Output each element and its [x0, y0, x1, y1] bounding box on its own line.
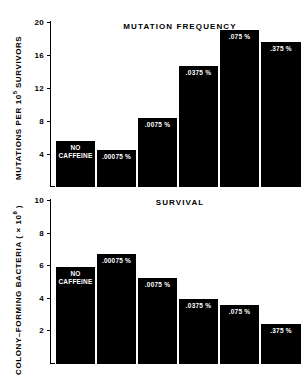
y-tick-label-top-4: 4: [20, 150, 44, 159]
bar-label-375: .375 %: [261, 42, 301, 53]
bar-label-survival-00075: .00075 %: [97, 254, 136, 265]
y-tick-top-8: [47, 121, 51, 122]
bar-survival-375[interactable]: .375 %: [260, 323, 302, 364]
bar-0075[interactable]: .0075 %: [137, 117, 178, 187]
chart-title-mutation-frequency: MUTATION FREQUENCY: [55, 22, 305, 31]
y-tick-label-top-16: 16: [20, 51, 44, 60]
y-axis-title-mutations-prefix: MUTATIONS PER 10: [14, 94, 23, 180]
y-axis-title-mutations-suffix: SURVIVORS: [14, 36, 23, 91]
y-axis-title-cfb-exponent: 8: [12, 211, 18, 214]
y-tick-label-bottom-2: 2: [20, 326, 44, 335]
bar-survival-0075[interactable]: .0075 %: [137, 277, 178, 364]
y-tick-bottom-10: [47, 200, 51, 201]
chart-title-survival: SURVIVAL: [55, 198, 305, 207]
y-axis-line-bottom: [50, 199, 51, 364]
bar-0375[interactable]: .0375 %: [178, 65, 219, 187]
bar-label-survival-075: .075 %: [220, 305, 259, 316]
y-tick-label-bottom-10: 10: [20, 196, 44, 205]
bar-label-survival-375: .375 %: [261, 324, 301, 335]
y-tick-bottom-4: [47, 298, 51, 299]
y-tick-label-top-20: 20: [20, 18, 44, 27]
figure-canvas: MUTATION FREQUENCY MUTATIONS PER 105 SUR…: [0, 0, 307, 390]
bar-no-caffeine[interactable]: NO CAFFEINE: [55, 140, 96, 187]
bar-survival-075[interactable]: .075 %: [219, 304, 260, 364]
bar-label-0375: .0375 %: [179, 66, 218, 77]
bar-00075[interactable]: .00075 %: [96, 149, 137, 187]
bar-label-survival-0075: .0075 %: [138, 278, 177, 289]
y-tick-label-bottom-6: 6: [20, 261, 44, 270]
y-axis-title-cfb-suffix: ): [14, 205, 23, 211]
bar-075[interactable]: .075 %: [219, 29, 260, 187]
bar-375[interactable]: .375 %: [260, 41, 302, 187]
bar-survival-no-caffeine[interactable]: NO CAFFEINE: [55, 266, 96, 364]
bar-label-survival-no-caffeine: NO CAFFEINE: [56, 267, 95, 285]
y-tick-top-16: [47, 55, 51, 56]
y-tick-top-4: [47, 154, 51, 155]
y-axis-line-top: [50, 21, 51, 187]
y-tick-bottom-8: [47, 233, 51, 234]
y-tick-top-12: [47, 88, 51, 89]
bar-label-0075: .0075 %: [138, 118, 177, 129]
chart-mutation-frequency: MUTATION FREQUENCY MUTATIONS PER 105 SUR…: [0, 0, 307, 195]
y-tick-bottom-6: [47, 265, 51, 266]
y-tick-label-bottom-4: 4: [20, 294, 44, 303]
bar-label-00075: .00075 %: [97, 150, 136, 161]
y-tick-bottom-2: [47, 330, 51, 331]
bar-label-no-caffeine: NO CAFFEINE: [56, 141, 95, 159]
bar-label-survival-0375: .0375 %: [179, 299, 218, 310]
y-axis-title-mutations-exponent: 5: [12, 91, 18, 94]
y-tick-label-top-8: 8: [20, 117, 44, 126]
chart-survival: SURVIVAL COLONY–FORMING BACTERIA ( × 108…: [0, 190, 307, 390]
y-tick-label-bottom-8: 8: [20, 229, 44, 238]
bar-survival-0375[interactable]: .0375 %: [178, 298, 219, 364]
bar-label-075: .075 %: [220, 30, 259, 41]
y-tick-top-20: [47, 22, 51, 23]
bar-survival-00075[interactable]: .00075 %: [96, 253, 137, 364]
y-tick-label-top-12: 12: [20, 84, 44, 93]
